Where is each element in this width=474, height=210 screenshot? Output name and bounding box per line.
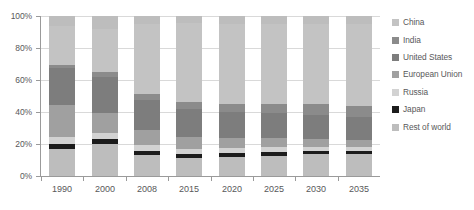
legend-item[interactable]: Rest of world — [392, 118, 474, 135]
bar-segment[interactable] — [49, 137, 75, 144]
bar-segment[interactable] — [134, 100, 160, 130]
legend-item[interactable]: Japan — [392, 101, 474, 118]
y-tickmark — [36, 176, 41, 177]
bar-segment[interactable] — [261, 104, 287, 113]
legend-swatch-icon — [392, 89, 399, 96]
bar-segment[interactable] — [92, 113, 118, 133]
bar-segment[interactable] — [49, 149, 75, 176]
legend-swatch-icon — [392, 106, 399, 113]
bar-segment[interactable] — [219, 104, 245, 112]
chart-legend: ChinaIndiaUnited StatesEuropean UnionRus… — [392, 14, 474, 136]
bar-segment[interactable] — [346, 24, 372, 106]
legend-item[interactable]: United States — [392, 49, 474, 66]
x-tick-label: 2020 — [212, 184, 252, 194]
bar-segment[interactable] — [219, 16, 245, 24]
legend-swatch-icon — [392, 54, 399, 61]
x-tickmark — [295, 177, 296, 181]
legend-label: European Union — [403, 70, 462, 79]
bar-segment[interactable] — [346, 117, 372, 140]
bar-group[interactable] — [49, 16, 75, 176]
bar-segment[interactable] — [303, 16, 329, 24]
bar-segment[interactable] — [303, 115, 329, 139]
bar-segment[interactable] — [176, 137, 202, 149]
x-tick-label: 2035 — [339, 184, 379, 194]
bar-segment[interactable] — [346, 154, 372, 176]
legend-label: India — [403, 36, 421, 45]
legend-label: Japan — [403, 105, 425, 114]
legend-swatch-icon — [392, 124, 399, 131]
bar-group[interactable] — [346, 16, 372, 176]
legend-label: Rest of world — [403, 123, 451, 132]
legend-item[interactable]: Russia — [392, 84, 474, 101]
legend-label: United States — [403, 53, 452, 62]
legend-item[interactable]: European Union — [392, 66, 474, 83]
bar-segment[interactable] — [176, 158, 202, 176]
x-tick-label: 2000 — [85, 184, 125, 194]
y-tickmark — [36, 144, 41, 145]
y-tickmark — [36, 112, 41, 113]
x-tick-label: 1990 — [42, 184, 82, 194]
bar-group[interactable] — [92, 16, 118, 176]
bar-segment[interactable] — [92, 144, 118, 176]
x-tick-label: 2030 — [296, 184, 336, 194]
x-tickmark — [211, 177, 212, 181]
bar-segment[interactable] — [49, 16, 75, 26]
bar-segment[interactable] — [303, 104, 329, 114]
bar-segment[interactable] — [92, 16, 118, 29]
legend-item[interactable]: India — [392, 31, 474, 48]
bar-segment[interactable] — [219, 112, 245, 138]
bar-segment[interactable] — [49, 105, 75, 137]
plot-area: 0%20%40%60%80%100% 199020002008201520202… — [0, 0, 385, 210]
bar-segment[interactable] — [92, 29, 118, 73]
bar-group[interactable] — [219, 16, 245, 176]
bar-segment[interactable] — [303, 24, 329, 104]
bar-group[interactable] — [134, 16, 160, 176]
bar-segment[interactable] — [134, 16, 160, 24]
bar-segment[interactable] — [261, 113, 287, 138]
x-tickmark — [253, 177, 254, 181]
bar-segment[interactable] — [219, 157, 245, 176]
x-tickmark — [168, 177, 169, 181]
bar-segment[interactable] — [261, 16, 287, 24]
bar-group[interactable] — [303, 16, 329, 176]
legend-swatch-icon — [392, 37, 399, 44]
legend-swatch-icon — [392, 19, 399, 26]
legend-item[interactable]: China — [392, 14, 474, 31]
bar-segment[interactable] — [219, 24, 245, 104]
bar-segment[interactable] — [134, 24, 160, 93]
bar-segment[interactable] — [261, 138, 287, 147]
bar-segment[interactable] — [176, 109, 202, 137]
x-tick-label: 2008 — [127, 184, 167, 194]
bars-layer: 19902000200820152020202520302035 — [0, 0, 385, 210]
bar-segment[interactable] — [303, 154, 329, 176]
bar-segment[interactable] — [261, 156, 287, 176]
x-tickmark — [41, 177, 42, 181]
bar-segment[interactable] — [176, 16, 202, 23]
bar-segment[interactable] — [49, 68, 75, 105]
x-tickmark — [83, 177, 84, 181]
bar-segment[interactable] — [49, 26, 75, 64]
bar-segment[interactable] — [176, 23, 202, 101]
bar-segment[interactable] — [134, 130, 160, 145]
x-tick-label: 2015 — [169, 184, 209, 194]
bar-segment[interactable] — [219, 138, 245, 148]
x-tickmark — [338, 177, 339, 181]
x-tick-label: 2025 — [254, 184, 294, 194]
bar-segment[interactable] — [134, 155, 160, 176]
bar-group[interactable] — [176, 16, 202, 176]
bar-segment[interactable] — [261, 24, 287, 104]
legend-label: China — [403, 18, 424, 27]
bar-segment[interactable] — [346, 16, 372, 24]
bar-segment[interactable] — [346, 106, 372, 117]
y-tickmark — [36, 16, 41, 17]
bar-segment[interactable] — [176, 102, 202, 109]
bar-segment[interactable] — [303, 139, 329, 147]
y-tickmark — [36, 48, 41, 49]
bar-group[interactable] — [261, 16, 287, 176]
legend-swatch-icon — [392, 71, 399, 78]
y-tickmark — [36, 80, 41, 81]
x-tickmark — [126, 177, 127, 181]
stacked-bar-chart: 0%20%40%60%80%100% 199020002008201520202… — [0, 0, 474, 210]
bar-segment[interactable] — [92, 77, 118, 112]
bar-segment[interactable] — [346, 140, 372, 147]
